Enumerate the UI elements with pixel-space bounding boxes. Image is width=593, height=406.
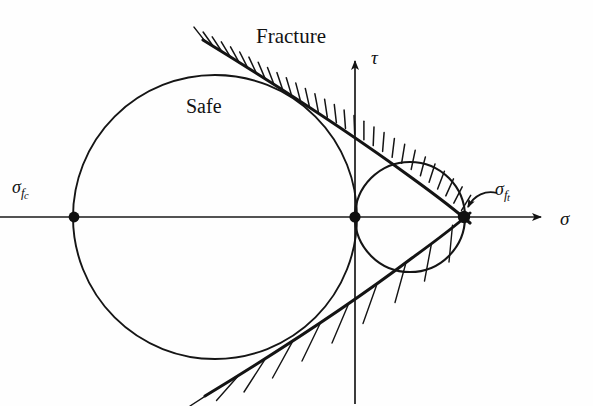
lower-fracture-envelope	[190, 213, 470, 406]
origin-point	[349, 211, 360, 222]
safe-label: Safe	[186, 96, 222, 116]
sigma-ft-base: σ	[495, 179, 504, 199]
sigma-ft-label: σft	[495, 180, 510, 204]
fracture-label: Fracture	[256, 26, 326, 47]
upper-envelope-hatching	[194, 27, 471, 210]
sigma-fc-base: σ	[12, 177, 21, 197]
sigma-ft-leader-line	[468, 192, 497, 207]
sigma-ft-sub-t: t	[507, 192, 510, 203]
figure-canvas: Fracture Safe τ σ σfc σft	[0, 0, 593, 406]
sigma-axis-label: σ	[560, 209, 569, 228]
upper-fracture-envelope	[194, 27, 471, 223]
upper-envelope-curve	[203, 40, 470, 223]
axes-group	[0, 61, 541, 404]
sigma-fc-point	[69, 212, 80, 223]
sigma-ft-point	[458, 211, 470, 223]
lower-envelope-hatching	[190, 225, 453, 406]
lower-envelope-curve	[205, 213, 470, 396]
sigma-fc-sub-c: c	[24, 190, 29, 201]
sigma-ft-leader-group	[468, 192, 497, 207]
sigma-fc-label: σfc	[12, 178, 29, 202]
tau-axis-label: τ	[371, 48, 378, 67]
